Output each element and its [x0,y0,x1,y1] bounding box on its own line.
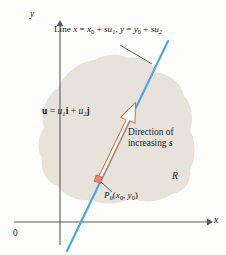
origin-label: 0 [13,228,18,239]
y-axis-label: y [30,9,34,20]
line-equation-plus1: + [94,24,104,34]
direction-line-2-prefix: increasing [128,138,169,148]
direction-label: Direction of increasing s [128,127,174,149]
point-p0-label: P0(x0, y0) [104,190,138,201]
direction-line-2: increasing s [128,138,174,149]
direction-line-2-var: s [169,138,173,148]
vector-plus: + [68,105,78,116]
line-equation-eq2: = [124,24,134,34]
line-equation-u2-sub: 2 [159,28,162,35]
line-equation-eq1: = [77,24,87,34]
x-axis-label: x [214,215,218,226]
point-paren-close: ) [135,190,138,200]
line-equation-plus2: + [141,24,151,34]
figure-canvas: Line x = x0 + su1, y = y0 + su2 u = u1i … [0,0,226,255]
vector-eq: = [47,105,57,116]
region-label: R [172,170,178,181]
direction-line-1: Direction of [128,127,174,138]
figure-svg [0,0,226,255]
vector-u-label: u = u1i + u2j [42,105,90,117]
line-equation-prefix: Line [54,24,73,34]
x-axis-arrowhead [207,219,213,226]
line-equation-label: Line x = x0 + su1, y = y0 + su2 [54,24,162,35]
vector-j-symbol: j [87,105,90,116]
